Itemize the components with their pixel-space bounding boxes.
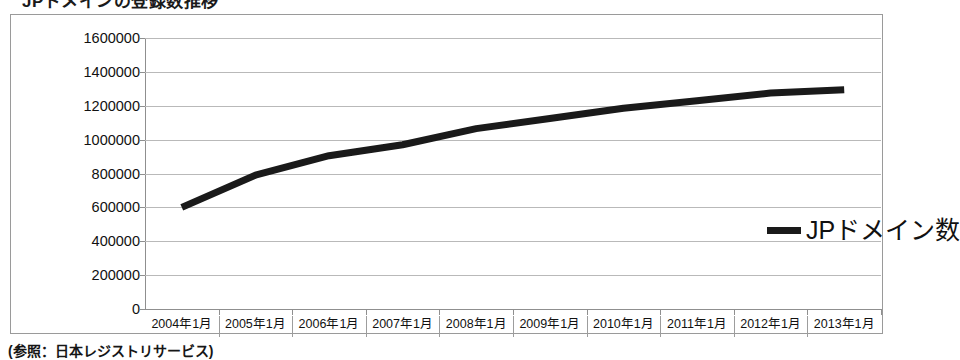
x-axis-label: 2004年1月	[145, 318, 219, 331]
x-axis-label: 2005年1月	[219, 318, 293, 331]
x-axis-label: 2007年1月	[366, 318, 440, 331]
y-axis-label: 1600000	[12, 31, 140, 46]
x-axis-label: 2011年1月	[660, 318, 734, 331]
series-line-group	[145, 38, 881, 309]
y-axis-label: 200000	[12, 268, 140, 283]
series-line-jp-domains	[182, 90, 844, 208]
plot-area: 1600000140000012000001000000800000600000…	[145, 38, 881, 309]
x-tick	[881, 309, 882, 315]
y-tick	[140, 309, 145, 310]
x-axis-label: 2013年1月	[807, 318, 881, 331]
x-tick	[660, 309, 661, 315]
legend-label: JPドメイン数	[806, 218, 960, 243]
legend-swatch-icon	[767, 227, 801, 234]
x-axis-label: 2008年1月	[439, 318, 513, 331]
y-axis-label: 400000	[12, 234, 140, 249]
y-axis-label: 1200000	[12, 99, 140, 114]
x-tick	[292, 309, 293, 315]
chart-frame: 1600000140000012000001000000800000600000…	[10, 14, 883, 334]
chart-title-strip: JPドメインの登録数推移	[0, 0, 903, 13]
x-axis-label: 2012年1月	[734, 318, 808, 331]
page-title: JPドメインの登録数推移	[22, 0, 219, 12]
x-tick	[513, 309, 514, 315]
x-tick	[439, 309, 440, 315]
y-axis-label: 600000	[12, 200, 140, 215]
x-tick	[366, 309, 367, 315]
y-axis-label: 1000000	[12, 133, 140, 148]
source-caption: (参照：日本レジストリサービス)	[8, 340, 213, 360]
x-axis-label: 2010年1月	[587, 318, 661, 331]
y-axis-label: 800000	[12, 167, 140, 182]
x-tick	[807, 309, 808, 315]
x-axis-label: 2006年1月	[292, 318, 366, 331]
x-tick	[219, 309, 220, 315]
chart-legend: JPドメイン数	[767, 218, 960, 243]
x-axis-label: 2009年1月	[513, 318, 587, 331]
y-axis-label: 0	[12, 302, 140, 317]
y-axis-label: 1400000	[12, 65, 140, 80]
x-tick	[734, 309, 735, 315]
x-tick	[587, 309, 588, 315]
